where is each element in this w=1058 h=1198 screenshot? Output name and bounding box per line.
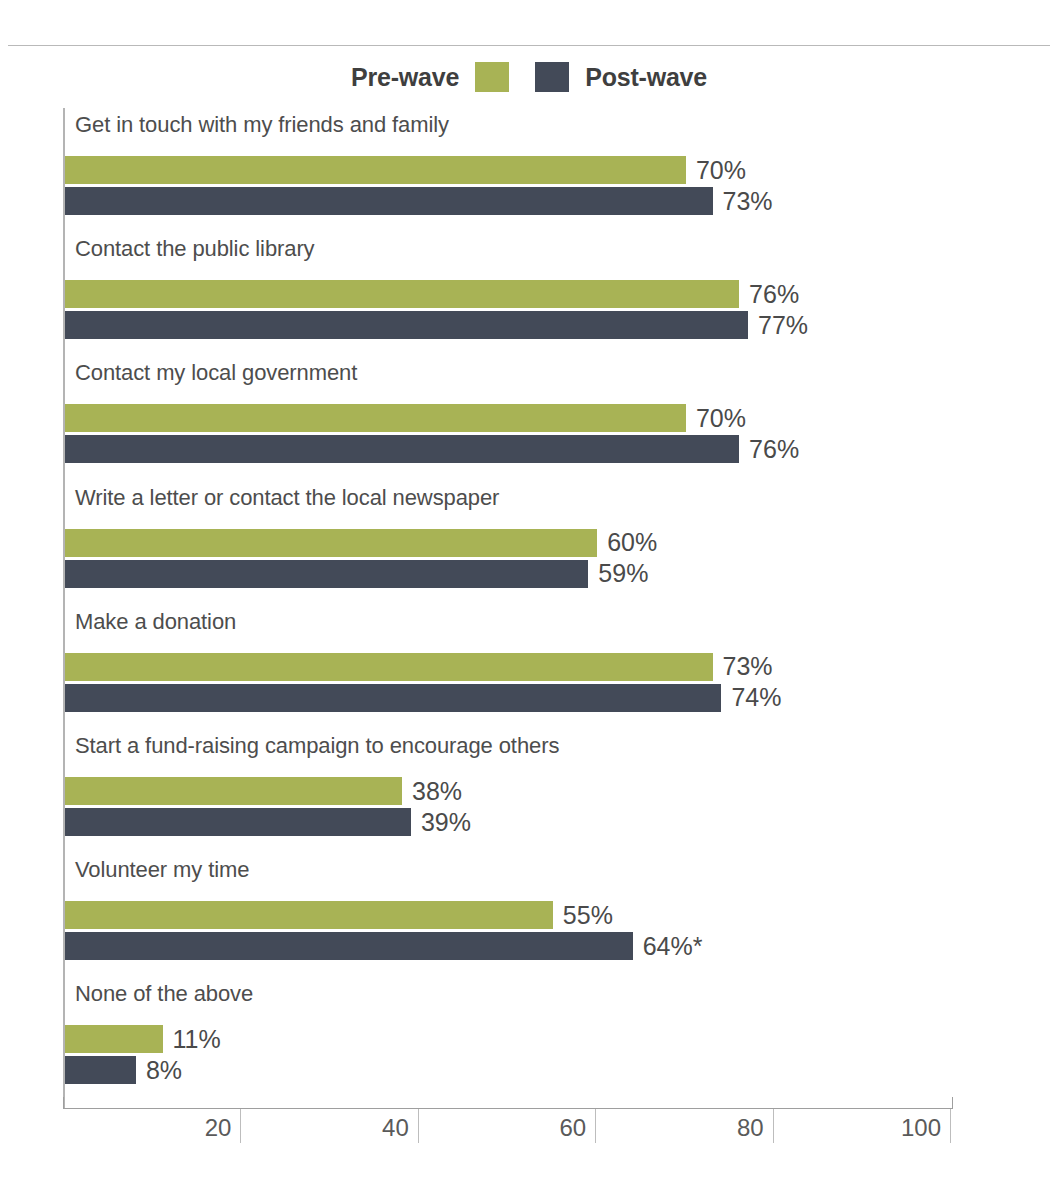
- bar-chart: Get in touch with my friends and family7…: [0, 0, 1058, 1198]
- bar-group-label: Contact the public library: [75, 236, 315, 262]
- bar-value-label: 76%: [749, 282, 799, 307]
- bar-value-label: 74%: [731, 685, 781, 710]
- bar-value-label: 73%: [723, 654, 773, 679]
- bar-group-label: Volunteer my time: [75, 857, 249, 883]
- bar-row-pre-wave: 55%: [65, 901, 613, 929]
- bar-row-post-wave: 8%: [65, 1056, 182, 1084]
- bar-row-post-wave: 76%: [65, 435, 799, 463]
- bar: [65, 529, 597, 557]
- bar-value-label: 59%: [598, 561, 648, 586]
- bar-row-post-wave: 74%: [65, 684, 781, 712]
- value-axis-tick: [773, 1109, 774, 1143]
- bar-value-label: 38%: [412, 779, 462, 804]
- bar-row-post-wave: 59%: [65, 560, 648, 588]
- bar-group-label: Make a donation: [75, 609, 236, 635]
- bar-group-label: Write a letter or contact the local news…: [75, 485, 499, 511]
- bar: [65, 1025, 163, 1053]
- bar-row-pre-wave: 73%: [65, 653, 773, 681]
- bar-group-label: Contact my local government: [75, 360, 357, 386]
- bar-row-pre-wave: 60%: [65, 529, 657, 557]
- value-axis-tick-label: 20: [205, 1114, 241, 1142]
- value-axis-tick-label: 100: [901, 1114, 950, 1142]
- bar: [65, 808, 411, 836]
- bar-row-pre-wave: 76%: [65, 280, 799, 308]
- value-axis-start-cap: [63, 1097, 64, 1109]
- value-axis-tick: [418, 1109, 419, 1143]
- bar-value-label: 76%: [749, 437, 799, 462]
- bar-value-label: 39%: [421, 810, 471, 835]
- bar-value-label: 64%*: [643, 934, 703, 959]
- bar-value-label: 8%: [146, 1058, 182, 1083]
- bar: [65, 311, 748, 339]
- bar-row-pre-wave: 38%: [65, 777, 462, 805]
- bar-group-label: Get in touch with my friends and family: [75, 112, 449, 138]
- bar-row-post-wave: 77%: [65, 311, 808, 339]
- bar: [65, 653, 713, 681]
- bar: [65, 901, 553, 929]
- bar: [65, 404, 686, 432]
- bar-value-label: 70%: [696, 158, 746, 183]
- bar-row-pre-wave: 70%: [65, 156, 746, 184]
- bar: [65, 560, 588, 588]
- bar-row-post-wave: 73%: [65, 187, 773, 215]
- value-axis-tick-label: 40: [382, 1114, 418, 1142]
- bar-value-label: 77%: [758, 313, 808, 338]
- bar-row-pre-wave: 11%: [65, 1025, 221, 1053]
- bar: [65, 684, 721, 712]
- bar: [65, 280, 739, 308]
- value-axis-line: [63, 1108, 953, 1109]
- bar-group-label: Start a fund-raising campaign to encoura…: [75, 733, 559, 759]
- bar: [65, 777, 402, 805]
- value-axis-tick: [240, 1109, 241, 1143]
- bar-row-pre-wave: 70%: [65, 404, 746, 432]
- bar-value-label: 73%: [723, 189, 773, 214]
- bar-group-label: None of the above: [75, 981, 253, 1007]
- value-axis-tick: [950, 1109, 951, 1143]
- bar-value-label: 70%: [696, 406, 746, 431]
- bar-value-label: 55%: [563, 903, 613, 928]
- bar: [65, 1056, 136, 1084]
- bar: [65, 187, 713, 215]
- value-axis-tick-label: 80: [737, 1114, 773, 1142]
- bar-value-label: 11%: [173, 1027, 221, 1052]
- bar-row-post-wave: 39%: [65, 808, 471, 836]
- bar: [65, 156, 686, 184]
- value-axis-end-cap: [952, 1097, 953, 1109]
- value-axis-tick-label: 60: [559, 1114, 595, 1142]
- bar: [65, 435, 739, 463]
- bar: [65, 932, 633, 960]
- bar-row-post-wave: 64%*: [65, 932, 702, 960]
- value-axis-tick: [595, 1109, 596, 1143]
- bar-value-label: 60%: [607, 530, 657, 555]
